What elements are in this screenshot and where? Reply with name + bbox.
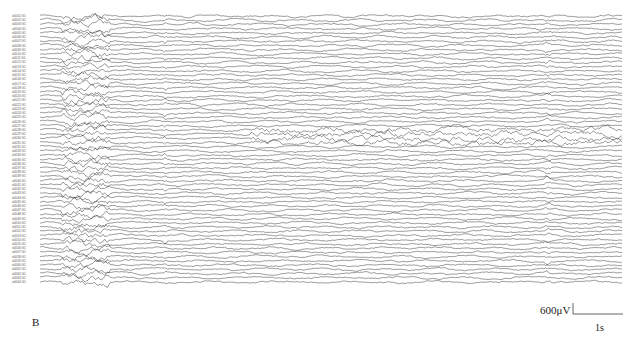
channel-trace	[40, 63, 622, 69]
amplitude-scale-label: 600μV	[540, 304, 570, 316]
channel-trace	[40, 191, 622, 198]
channel-trace	[40, 260, 622, 268]
channel-trace	[40, 270, 622, 277]
channel-trace	[40, 159, 622, 168]
channel-trace	[40, 68, 622, 75]
channel-traces	[40, 13, 622, 287]
channel-trace	[40, 224, 622, 231]
channel-trace	[40, 39, 622, 47]
channel-trace	[40, 203, 622, 210]
channel-trace	[40, 182, 622, 188]
channel-trace	[40, 59, 622, 66]
channel-trace	[40, 122, 622, 129]
channel-trace	[40, 211, 622, 218]
channel-trace	[40, 152, 622, 159]
channel-trace	[40, 105, 622, 112]
channel-trace	[40, 249, 622, 257]
channel-trace	[40, 84, 622, 91]
time-scale-label: 1s	[595, 322, 604, 333]
channel-trace	[40, 244, 622, 253]
panel-label: B	[32, 316, 39, 328]
channel-trace	[40, 47, 622, 52]
channel-trace	[40, 139, 622, 147]
channel-trace	[40, 228, 622, 234]
channel-trace	[40, 280, 622, 287]
channel-label: s0064 G1	[12, 280, 26, 284]
channel-trace	[40, 42, 622, 48]
channel-trace	[40, 27, 622, 34]
channel-trace	[40, 30, 622, 42]
channel-trace	[40, 240, 622, 247]
channel-trace	[40, 147, 622, 153]
channel-trace	[40, 118, 622, 127]
channel-trace	[40, 93, 622, 100]
channel-trace	[40, 109, 622, 117]
channel-trace	[40, 89, 622, 95]
channel-trace	[40, 172, 622, 181]
channel-trace	[40, 254, 622, 261]
channel-trace	[40, 196, 622, 204]
eeg-trace-plot: s0001 G1s0002 G1s0003 G1s0004 G1s0005 G1…	[0, 0, 638, 338]
channel-trace	[40, 176, 622, 184]
channel-trace	[40, 232, 622, 237]
channel-trace	[40, 76, 622, 83]
channel-trace	[40, 257, 622, 265]
channel-trace	[40, 102, 622, 107]
channel-trace	[40, 98, 622, 105]
scale-bar	[573, 303, 623, 314]
channel-trace	[40, 169, 622, 177]
channel-labels: s0001 G1s0002 G1s0003 G1s0004 G1s0005 G1…	[12, 14, 26, 284]
channel-trace	[40, 55, 622, 62]
channel-trace	[40, 236, 622, 243]
